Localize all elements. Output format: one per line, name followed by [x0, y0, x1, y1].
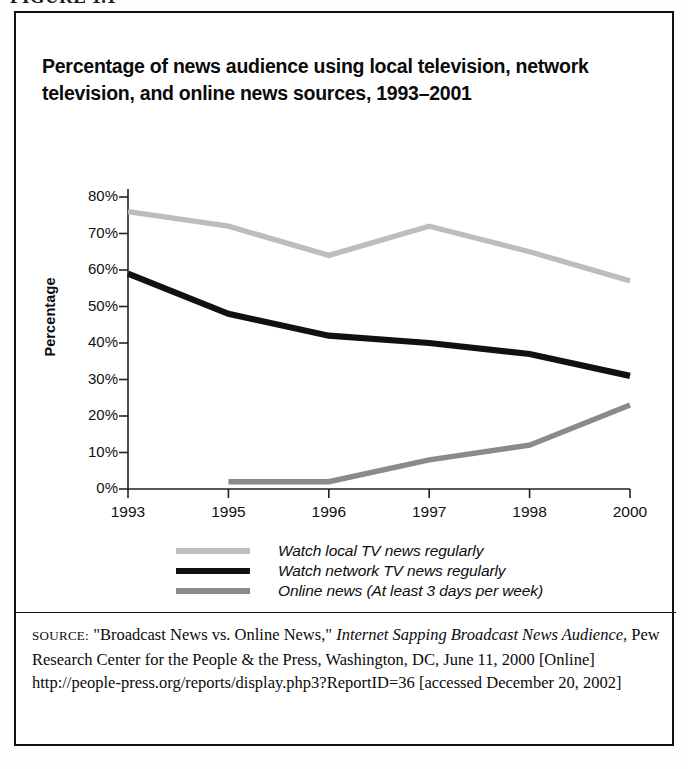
legend-label-1: Watch network TV news regularly — [278, 562, 505, 580]
chart-plot-area: Percentage 0%10%20%30%40%50%60%70%80% 19… — [16, 13, 676, 573]
legend-swatch-1 — [176, 568, 250, 574]
legend-swatch-2 — [176, 588, 250, 594]
series-line-1 — [128, 274, 630, 376]
figure-number-label: FIGURE 1.1 — [10, 0, 116, 8]
legend-label-2: Online news (At least 3 days per week) — [278, 582, 543, 600]
legend-item-2: Online news (At least 3 days per week) — [176, 581, 646, 601]
source-divider — [16, 612, 676, 613]
source-prefix: SOURCE: — [32, 628, 89, 643]
legend-swatch-0 — [176, 548, 250, 554]
legend-item-1: Watch network TV news regularly — [176, 561, 646, 581]
chart-lines — [16, 13, 676, 573]
legend-label-0: Watch local TV news regularly — [278, 542, 483, 560]
source-publication-title: Internet Sapping Broadcast News Audience… — [336, 625, 627, 644]
legend-item-0: Watch local TV news regularly — [176, 541, 646, 561]
figure-page: FIGURE 1.1 Percentage of news audience u… — [0, 0, 688, 769]
chart-legend: Watch local TV news regularlyWatch netwo… — [176, 541, 646, 601]
figure-frame: Percentage of news audience using local … — [14, 11, 674, 746]
source-text-1: "Broadcast News vs. Online News," — [89, 625, 336, 644]
source-note: SOURCE: "Broadcast News vs. Online News,… — [32, 623, 662, 695]
series-line-2 — [228, 405, 630, 482]
series-line-0 — [128, 212, 630, 281]
